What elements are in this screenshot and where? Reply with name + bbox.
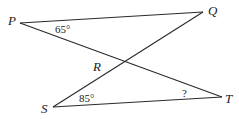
point-label-t: T (225, 91, 233, 106)
point-label-s: S (41, 101, 48, 116)
segment-pt (20, 23, 222, 97)
angle-label-s: 85° (79, 92, 94, 104)
point-label-r: R (92, 59, 101, 74)
segment-sq (53, 12, 203, 107)
point-label-p: P (7, 13, 16, 28)
point-label-q: Q (208, 3, 218, 18)
geometry-diagram: P Q R S T 65° 85° ? (0, 0, 239, 119)
angle-label-t: ? (182, 87, 187, 99)
segment-pq (20, 12, 203, 23)
angle-label-p: 65° (55, 23, 70, 35)
